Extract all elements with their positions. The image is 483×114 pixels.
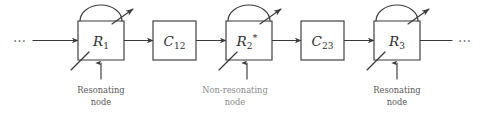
resonator-node-r1[interactable]: R1 [71,5,133,70]
left-ellipsis: ⋯ [13,33,27,48]
caption-group-r3: Resonating node [373,63,421,107]
coupler-node-c12[interactable]: C12 [153,21,196,60]
resonator-node-r2[interactable]: R2* [219,5,281,70]
diagram-canvas: R1 Resonating node C12 R2* Non-resonatin… [0,0,483,114]
right-ellipsis: ⋯ [458,33,472,48]
resonator-node-r3[interactable]: R3 [367,5,429,70]
r1-resonance-arc [80,5,122,21]
r1-caption-line2: node [91,97,112,107]
caption-group-r2: Non-resonating node [202,63,268,107]
caption-group-r1: Resonating node [77,63,125,107]
resonator-chain-diagram: R1 Resonating node C12 R2* Non-resonatin… [0,0,483,114]
r1-caption-line1: Resonating [77,85,125,95]
r3-resonance-arc [376,5,418,21]
r3-caption-line1: Resonating [373,85,421,95]
r2-caption-line2: node [225,97,246,107]
r2-resonance-arc [228,5,270,21]
coupler-node-c23[interactable]: C23 [301,21,344,60]
r2-caption-line1: Non-resonating [202,85,268,95]
r3-caption-line2: node [387,97,408,107]
